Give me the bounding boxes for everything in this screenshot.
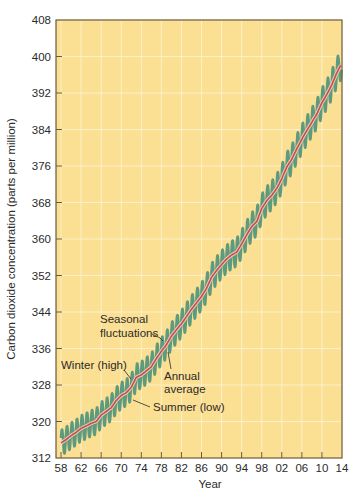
x-tick-label: 02	[275, 462, 288, 474]
y-tick-label: 392	[32, 87, 51, 99]
y-tick-label: 384	[32, 124, 52, 136]
annotation-seasonal-line1: Seasonal	[100, 313, 148, 325]
y-tick-label: 336	[32, 343, 51, 355]
y-axis-title: Carbon dioxide concentration (parts per …	[5, 118, 17, 360]
annotation-annual-line1: Annual	[164, 370, 200, 382]
y-tick-label: 360	[32, 233, 51, 245]
y-tick-label: 400	[32, 51, 51, 63]
annotation-winter-label: Winter (high)	[61, 359, 127, 371]
y-tick-label: 368	[32, 197, 51, 209]
annotation-seasonal-line2: fluctuations	[100, 327, 158, 339]
x-tick-label: 98	[255, 462, 268, 474]
y-tick-label: 376	[32, 160, 51, 172]
y-tick-label: 408	[32, 14, 51, 26]
y-tick-label: 328	[32, 379, 51, 391]
y-tick-label: 344	[32, 306, 52, 318]
co2-chart: 312320328336344352360368376384392400408 …	[0, 0, 363, 497]
x-tick-label: 74	[135, 462, 148, 474]
x-axis-title: Year	[198, 478, 221, 490]
x-tick-label: 14	[336, 462, 349, 474]
x-tick-label: 94	[235, 462, 248, 474]
x-tick-label: 78	[155, 462, 168, 474]
x-tick-label: 10	[316, 462, 329, 474]
annotation-annual-line2: average	[164, 383, 206, 395]
annotation-summer-label: Summer (low)	[153, 401, 225, 413]
y-tick-label: 320	[32, 416, 51, 428]
y-tick-label: 352	[32, 270, 51, 282]
x-tick-label: 58	[55, 462, 68, 474]
x-tick-label: 06	[295, 462, 308, 474]
x-tick-label: 82	[175, 462, 188, 474]
x-tick-label: 86	[195, 462, 208, 474]
x-tick-label: 90	[215, 462, 228, 474]
x-tick-label: 66	[95, 462, 108, 474]
x-tick-label: 70	[115, 462, 128, 474]
x-tick-label: 62	[75, 462, 88, 474]
y-tick-label: 312	[32, 452, 51, 464]
